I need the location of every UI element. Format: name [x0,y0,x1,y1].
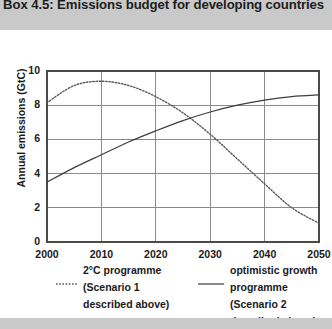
dotted-line-swatch-icon [56,283,78,285]
y-tick-label: 10 [14,64,40,76]
legend-item-scenario-1: 2°C programme (Scenario 1 described abov… [56,262,174,313]
legend-line: 2°C programme [83,262,174,279]
legend-line: (Scenario 1 [83,279,174,296]
screenshot-root: Box 4.5: Emissions budget for developing… [0,0,332,329]
y-tick-label: 8 [14,98,40,110]
y-tick-label: 2 [14,201,40,213]
chart-area: Annual emissions (GtC) 0246810 200020102… [0,30,332,258]
solid-line-swatch-icon [198,283,224,285]
legend-line: described above) [83,296,174,313]
legend-label-scenario-1: 2°C programme (Scenario 1 described abov… [83,262,174,313]
legend-line: optimistic growth [230,262,328,279]
y-tick-label: 0 [14,235,40,247]
bottom-band [0,318,332,329]
emissions-line-chart [0,30,332,258]
chart-legend: 2°C programme (Scenario 1 described abov… [0,258,332,318]
legend-line: programme (Scenario 2 [230,279,328,313]
y-tick-label: 6 [14,132,40,144]
y-tick-label: 4 [14,167,40,179]
chart-card: Annual emissions (GtC) 0246810 200020102… [0,30,332,318]
title-band: Box 4.5: Emissions budget for developing… [0,0,332,30]
page-title: Box 4.5: Emissions budget for developing… [3,0,329,13]
